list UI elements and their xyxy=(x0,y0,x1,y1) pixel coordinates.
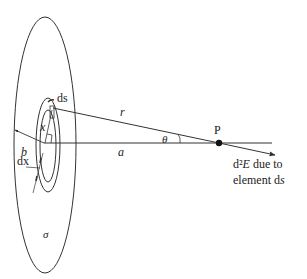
radius-x-line xyxy=(45,110,52,143)
label-r: r xyxy=(120,105,125,119)
label-x: x xyxy=(39,120,46,134)
label-field-line2: element ds xyxy=(233,173,285,187)
right-angle-marker xyxy=(47,134,52,143)
field-arrow xyxy=(219,143,275,155)
dx-tick-lower xyxy=(36,176,37,181)
label-p: P xyxy=(214,123,221,137)
label-theta: θ xyxy=(162,133,168,145)
label-dx: dx xyxy=(17,154,29,168)
point-p xyxy=(216,140,222,146)
label-field-line1: d²E due to xyxy=(233,157,283,171)
r-line xyxy=(53,108,219,143)
label-ds: ds xyxy=(57,91,68,105)
label-sigma: σ xyxy=(43,228,49,240)
charged-disc-field-diagram: ds x b a r θ P dx σ d²E due to element d… xyxy=(0,0,307,279)
label-a: a xyxy=(118,145,124,159)
theta-arc xyxy=(178,134,180,143)
dx-tick-upper xyxy=(40,158,41,163)
